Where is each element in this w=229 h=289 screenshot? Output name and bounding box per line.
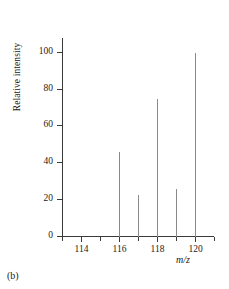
y-axis-line [62, 38, 63, 237]
figure-caption: (b) [7, 270, 19, 281]
x-axis-tick: 118 [157, 237, 158, 242]
y-axis-tick: 20 [57, 199, 62, 200]
y-axis-tick-label: 20 [44, 193, 54, 204]
x-axis-tick: 116 [119, 237, 120, 242]
y-axis-tick: 100 [57, 52, 62, 53]
spectrum-peak [157, 99, 158, 237]
y-axis-tick: 60 [57, 125, 62, 126]
y-axis-tick-label: 80 [44, 83, 54, 94]
mass-spectrum-figure: Relative intensity 020406080100 11411611… [0, 0, 229, 289]
spectrum-peak [195, 53, 196, 237]
spectrum-peak [119, 152, 120, 237]
y-axis-title: Relative intensity [12, 22, 22, 132]
y-axis-tick-label: 40 [44, 156, 54, 167]
x-axis-tick-label: 116 [113, 244, 127, 255]
y-axis-tick: 80 [57, 89, 62, 90]
y-axis-tick-label: 60 [44, 119, 54, 130]
spectrum-peak [176, 189, 177, 237]
y-axis-tick-label: 100 [39, 46, 53, 57]
plot-area: 020406080100 114116118120 [62, 38, 214, 237]
x-axis-tick-label: 118 [151, 244, 165, 255]
x-axis-minor-tick [100, 237, 101, 241]
x-axis-tick: 114 [81, 237, 82, 242]
y-axis-tick-label: 0 [48, 230, 53, 241]
x-axis-minor-tick [138, 237, 139, 241]
x-axis-title: m/z [176, 254, 190, 265]
x-axis-minor-tick [62, 237, 63, 241]
x-axis-tick-label: 120 [188, 244, 202, 255]
x-axis-minor-tick [214, 237, 215, 241]
x-axis-tick-label: 114 [75, 244, 89, 255]
x-axis-minor-tick [176, 237, 177, 241]
spectrum-peak [138, 195, 139, 237]
y-axis-tick: 40 [57, 162, 62, 163]
x-axis-tick: 120 [195, 237, 196, 242]
